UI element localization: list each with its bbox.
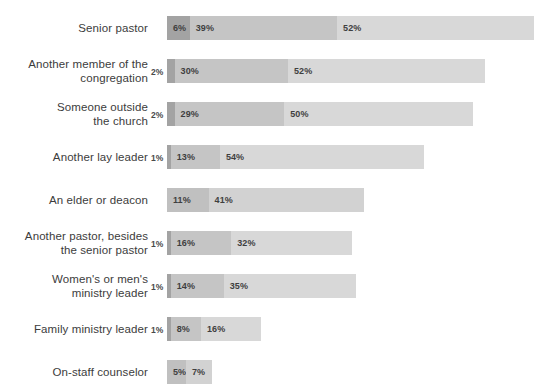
segment-value-label: 54%: [226, 152, 244, 162]
segment-value-label: 5%: [173, 367, 186, 377]
bar-segment: 11%: [167, 188, 209, 212]
segment-value-label: 52%: [343, 23, 361, 33]
bar-segment: 39%: [190, 16, 337, 40]
bar-segment: 29%: [175, 102, 285, 126]
segment-value-label: 35%: [230, 281, 248, 291]
segment-value-label: 8%: [177, 324, 190, 334]
bar-segment: 30%: [175, 59, 288, 83]
bar-segment: 2%: [167, 59, 175, 83]
outside-value-label: 1%: [151, 153, 165, 163]
chart-row: Another pastor, besides the senior pasto…: [0, 231, 540, 274]
stacked-bar: 11%41%: [167, 188, 364, 212]
chart-row: Another member of the congregation2%2%30…: [0, 59, 540, 102]
segment-value-label: 14%: [177, 281, 195, 291]
segment-value-label: 16%: [177, 238, 195, 248]
category-label: Someone outside the church: [0, 101, 148, 128]
stacked-bar: 1%8%16%: [167, 317, 262, 341]
bar-segment: 16%: [171, 231, 231, 255]
chart-row: Women's or men's ministry leader1%1%14%3…: [0, 274, 540, 317]
segment-value-label: 52%: [294, 66, 312, 76]
segment-value-label: 50%: [290, 109, 308, 119]
category-label: Another pastor, besides the senior pasto…: [0, 230, 148, 257]
chart-row: Senior pastor6%39%52%: [0, 16, 540, 59]
segment-value-label: 32%: [237, 238, 255, 248]
bar-segment: 52%: [288, 59, 485, 83]
segment-value-label: 41%: [215, 195, 233, 205]
outside-value-label: 2%: [151, 110, 165, 120]
bar-segment: 2%: [167, 102, 175, 126]
segment-value-label: 16%: [207, 324, 225, 334]
category-label: An elder or deacon: [0, 194, 148, 208]
bar-segment: 13%: [171, 145, 220, 169]
stacked-bar: 1%14%35%: [167, 274, 356, 298]
chart-row: Someone outside the church2%2%29%50%: [0, 102, 540, 145]
stacked-bar: 6%39%52%: [167, 16, 534, 40]
chart-row: On-staff counselor5%7%: [0, 360, 540, 388]
stacked-bar: 1%16%32%: [167, 231, 352, 255]
segment-value-label: 7%: [192, 367, 205, 377]
category-label: Another lay leader: [0, 151, 148, 165]
category-label: Another member of the congregation: [0, 58, 148, 85]
category-label: Women's or men's ministry leader: [0, 273, 148, 300]
segment-value-label: 11%: [173, 195, 191, 205]
bar-segment: 52%: [337, 16, 534, 40]
stacked-bar: 2%30%52%: [167, 59, 485, 83]
outside-value-label: 1%: [151, 239, 165, 249]
cropped-footnote: [0, 377, 540, 383]
category-label: Senior pastor: [0, 22, 148, 36]
category-label: Family ministry leader: [0, 323, 148, 337]
bar-segment: 8%: [171, 317, 201, 341]
bar-segment: 16%: [201, 317, 261, 341]
segment-value-label: 29%: [181, 109, 199, 119]
chart-row: Another lay leader1%1%13%54%: [0, 145, 540, 188]
bar-segment: 14%: [171, 274, 224, 298]
stacked-bar: 2%29%50%: [167, 102, 473, 126]
segment-value-label: 13%: [177, 152, 195, 162]
bar-segment: 35%: [224, 274, 356, 298]
bar-segment: 54%: [220, 145, 424, 169]
chart-row: An elder or deacon11%41%: [0, 188, 540, 231]
outside-value-label: 1%: [151, 325, 165, 335]
segment-value-label: 30%: [181, 66, 199, 76]
segment-value-label: 6%: [173, 23, 186, 33]
bar-segment: 32%: [231, 231, 352, 255]
segment-value-label: 39%: [196, 23, 214, 33]
outside-value-label: 2%: [151, 67, 165, 77]
bar-segment: 41%: [209, 188, 364, 212]
stacked-bar: 1%13%54%: [167, 145, 424, 169]
outside-value-label: 1%: [151, 282, 165, 292]
bar-segment: 50%: [284, 102, 473, 126]
chart-row: Family ministry leader1%1%8%16%: [0, 317, 540, 360]
bar-segment: 6%: [167, 16, 190, 40]
